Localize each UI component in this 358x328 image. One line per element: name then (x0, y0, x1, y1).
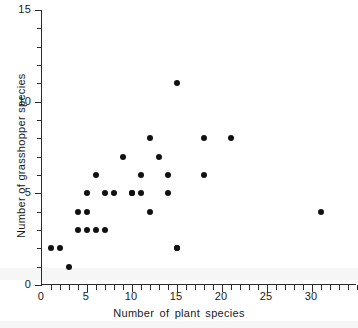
data-point (93, 227, 99, 233)
x-axis-tick-label: 20 (201, 290, 241, 302)
data-point (48, 245, 54, 251)
plot-area (41, 10, 356, 285)
x-axis-minor-tick (339, 285, 340, 290)
data-point (147, 209, 153, 215)
y-axis-tick-label: 15 (1, 3, 31, 15)
y-axis-major-tick (35, 102, 42, 103)
y-axis-minor-tick (37, 230, 42, 231)
x-axis-tick-label: 10 (111, 290, 151, 302)
y-axis-major-tick (35, 285, 42, 286)
y-axis-minor-tick (37, 47, 42, 48)
y-axis-major-tick (35, 193, 42, 194)
data-point (102, 190, 108, 196)
data-point (156, 154, 162, 160)
data-point (201, 172, 207, 178)
y-axis-minor-tick (37, 120, 42, 121)
data-point (93, 172, 99, 178)
x-axis-tick-label: 5 (66, 290, 106, 302)
y-axis-minor-tick (37, 175, 42, 176)
data-point (228, 135, 234, 141)
data-point (138, 172, 144, 178)
data-point (75, 209, 81, 215)
x-axis-tick-label: 30 (291, 290, 331, 302)
y-axis-minor-tick (37, 138, 42, 139)
y-axis-tick-label: 5 (1, 186, 31, 198)
y-axis-tick-label: 10 (1, 95, 31, 107)
data-point (84, 190, 90, 196)
data-point (201, 135, 207, 141)
data-point (75, 227, 81, 233)
data-point (174, 80, 180, 86)
data-point (165, 190, 171, 196)
y-axis-minor-tick (37, 248, 42, 249)
y-axis-tick-label: 0 (1, 278, 31, 290)
x-axis-tick-label: 15 (156, 290, 196, 302)
data-point (102, 227, 108, 233)
y-axis-minor-tick (37, 267, 42, 268)
x-axis-minor-tick (348, 285, 349, 290)
y-axis-minor-tick (37, 212, 42, 213)
data-point (165, 172, 171, 178)
data-point (129, 190, 135, 196)
y-axis-minor-tick (37, 28, 42, 29)
data-point (111, 190, 117, 196)
y-axis-major-tick (35, 10, 42, 11)
scan-artifact-band (0, 321, 358, 328)
y-axis-minor-tick (37, 65, 42, 66)
scatter-plot-figure: Number of grasshopper species Number of … (0, 0, 358, 328)
data-point (318, 209, 324, 215)
y-axis-minor-tick (37, 83, 42, 84)
x-axis-tick-label: 25 (246, 290, 286, 302)
data-point (84, 209, 90, 215)
data-point (57, 245, 63, 251)
data-point (120, 154, 126, 160)
data-point (174, 245, 180, 251)
data-point (138, 190, 144, 196)
x-axis-title: Number of plant species (0, 307, 358, 319)
data-point (84, 227, 90, 233)
data-point (66, 264, 72, 270)
x-axis-tick-label: 0 (21, 290, 61, 302)
data-point (147, 135, 153, 141)
y-axis-minor-tick (37, 157, 42, 158)
